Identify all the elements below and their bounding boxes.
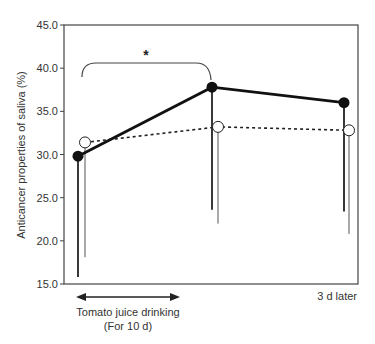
open-circle-marker [213, 121, 224, 132]
y-tick-label: 45.0 [37, 19, 58, 31]
arrow-left-head [76, 293, 86, 301]
open-circle-marker [344, 125, 355, 136]
arrow-label-line2: (For 10 d) [104, 320, 152, 332]
filled-circle-marker [339, 97, 350, 108]
y-tick-label: 35.0 [37, 105, 58, 117]
y-tick-label: 30.0 [37, 149, 58, 161]
filled-circle-marker [207, 82, 218, 93]
y-axis-label: Anticancer properties of saliva (%) [15, 71, 27, 239]
significance-star: * [143, 47, 149, 63]
significance-bracket [82, 63, 211, 80]
series-line-tomato [78, 87, 344, 156]
y-tick-label: 25.0 [37, 192, 58, 204]
filled-circle-marker [73, 151, 84, 162]
arrow-right-head [170, 293, 180, 301]
arrow-label-line1: Tomato juice drinking [76, 306, 179, 318]
open-circle-marker [80, 137, 91, 148]
plot-frame [64, 25, 358, 284]
y-tick-label: 40.0 [37, 62, 58, 74]
x-label-3d-later: 3 d later [317, 290, 357, 302]
line-chart: 15.020.025.030.035.040.045.0Anticancer p… [0, 0, 375, 344]
y-tick-label: 15.0 [37, 278, 58, 290]
y-tick-label: 20.0 [37, 235, 58, 247]
